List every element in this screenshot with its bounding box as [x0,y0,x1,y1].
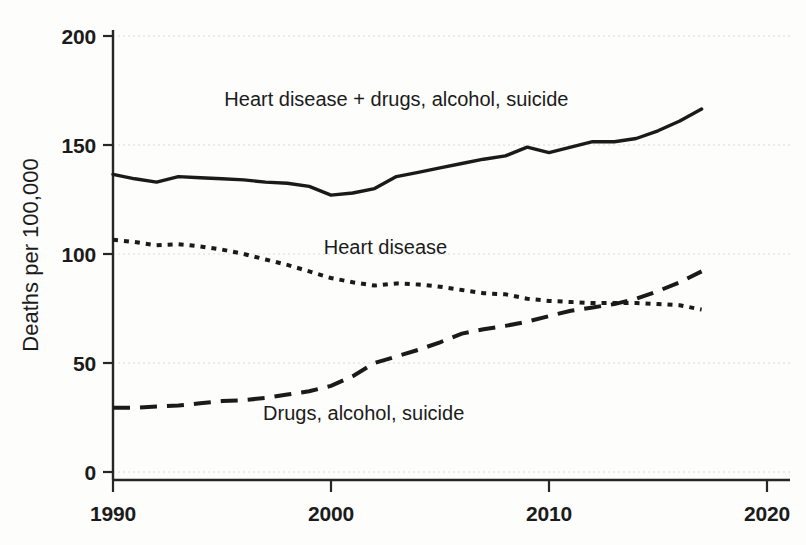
x-axis-ticks: 1990200020102020 [90,480,790,525]
line-chart-canvas: 050100150200 1990200020102020 Heart dise… [0,0,806,545]
x-tick-label-2020: 2020 [744,502,790,525]
y-tick-label-0: 0 [85,461,96,484]
y-axis-title: Deaths per 100,000 [18,158,43,351]
x-tick-label-1990: 1990 [90,502,136,525]
y-tick-label-200: 200 [62,25,96,48]
y-axis-ticks: 050100150200 [62,25,113,484]
series-line-solid [113,109,702,195]
x-tick-label-2000: 2000 [308,502,354,525]
y-tick-label-150: 150 [62,134,96,157]
series-label-solid: Heart disease + drugs, alcohol, suicide [224,88,568,110]
chart-figure: 050100150200 1990200020102020 Heart dise… [0,0,806,545]
y-tick-label-50: 50 [73,352,96,375]
series-label-dotted: Heart disease [324,236,447,258]
series-line-dashed [113,271,702,407]
y-tick-label-100: 100 [62,243,96,266]
series-inline-labels: Heart disease + drugs, alcohol, suicideH… [224,88,568,424]
series-label-dashed: Drugs, alcohol, suicide [263,402,464,424]
x-tick-label-2010: 2010 [526,502,572,525]
